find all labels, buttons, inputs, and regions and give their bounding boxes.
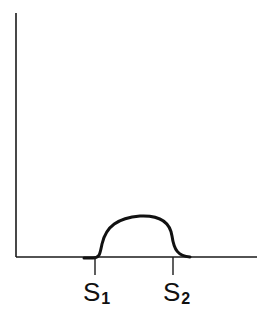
diagram: S1 S2 [0, 0, 279, 328]
peak-curve [84, 216, 190, 258]
marker-label-s1: S1 [83, 277, 110, 307]
marker-label-s2: S2 [163, 277, 190, 307]
